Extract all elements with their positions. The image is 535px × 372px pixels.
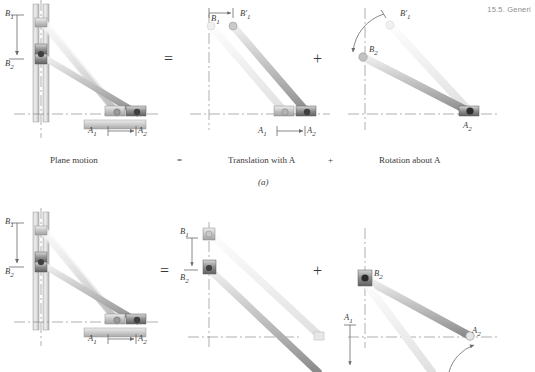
figure-letter: (a) [258,177,269,187]
sub-2: 2 [185,277,189,285]
sub-1: 1 [93,338,97,346]
label-b2-row1-right: B2 [369,44,378,57]
sub-1: 1 [263,130,267,138]
sub-2: 2 [10,63,14,71]
sub-1: 1 [10,221,14,229]
sub-1: 1 [216,18,220,26]
figure-page: 15.5. Generi [0,0,535,372]
sub-1: 1 [407,13,411,21]
label-b1-row2-left: B1 [5,216,14,229]
caption-equals: = [177,155,182,165]
caption-rotation: Rotation about A [379,155,441,165]
panel-translation-a [190,8,330,136]
operator-plus-row1: + [313,50,322,68]
panel-plane-motion [9,0,160,138]
label-b2-row2-right: B2 [374,268,383,281]
label-b1-row1-middle: B1 [211,13,220,26]
label-b2-row2-left: B2 [5,266,14,279]
sub-1: 1 [185,231,189,239]
operator-equals-row2: = [160,262,169,280]
sub-1: 1 [349,317,353,325]
label-a1-row2-middle: A1 [344,312,353,325]
label-a2-row1-right: A2 [463,120,472,133]
panel-translation-b [184,222,356,372]
panel-rotation-b [348,228,500,372]
label-a2-row2-left: A2 [138,333,147,346]
sub-1: 1 [247,13,251,21]
label-a1-row1-middle: A1 [258,125,267,138]
label-b2-row2-middle: B2 [180,272,189,285]
label-b1prime-row1-right: B′1 [400,8,411,21]
sub-1: 1 [10,13,14,21]
sub-2: 2 [143,338,147,346]
caption-plane-motion: Plane motion [50,155,98,165]
sub-2: 2 [312,130,316,138]
label-b2-row1-left: B2 [5,58,14,71]
caption-plus: + [328,155,333,165]
operator-plus-row2: + [313,262,322,280]
label-b1-row2-middle: B1 [180,226,189,239]
caption-translation: Translation with A [228,155,295,165]
label-a1-row2-left: A1 [88,333,97,346]
sub-2: 2 [374,49,378,57]
sub-2: 2 [477,330,481,338]
label-b1prime-row1-middle: B′1 [240,8,251,21]
label-a1-row1-left: A1 [88,125,97,138]
sub-2: 2 [143,130,147,138]
label-a2-row1-left: A2 [138,125,147,138]
label-a2-row1-middle: A2 [307,125,316,138]
sub-2: 2 [10,271,14,279]
label-b1-row1-left: B1 [5,8,14,21]
panel-plane-motion-b [9,208,160,346]
label-a2-row2-right: A2 [472,325,481,338]
panel-rotation-a [348,8,500,130]
sub-2: 2 [468,125,472,133]
sub-1: 1 [93,130,97,138]
operator-equals-row1: = [164,50,173,68]
sub-2: 2 [379,273,383,281]
